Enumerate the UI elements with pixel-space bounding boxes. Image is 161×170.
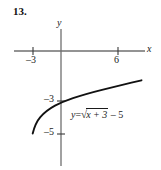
x-axis-label: x: [147, 43, 151, 54]
y-tick-label-neg5: –5: [44, 126, 54, 137]
graph-figure: 13. y x –3 6 –3 –5 y=√x + 3 – 5: [0, 0, 161, 170]
equation-radicand: x + 3: [86, 108, 108, 120]
coordinate-plot: [0, 0, 161, 170]
x-tick-label-neg3: –3: [26, 54, 36, 65]
x-tick-label-6: 6: [114, 54, 119, 65]
equation-trailing: – 5: [108, 109, 123, 120]
y-tick-label-neg3: –3: [44, 93, 54, 104]
equation-annotation: y=√x + 3 – 5: [71, 108, 123, 120]
y-axis-label: y: [57, 17, 61, 28]
